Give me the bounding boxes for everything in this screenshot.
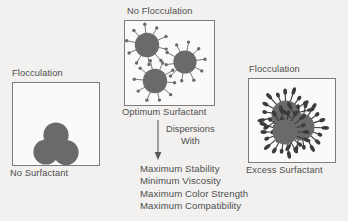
panel-optimum-surfactant-frame xyxy=(124,20,215,106)
panel-no-surfactant-frame xyxy=(12,82,100,166)
panel-excess-surfactant-bottom-caption: Excess Surfactant xyxy=(246,165,323,176)
benefit-item: Maximum Compatibility xyxy=(140,200,248,212)
benefit-item: Minimum Viscosity xyxy=(140,175,248,187)
benefit-item: Maximum Stability xyxy=(140,163,248,175)
panel-excess-surfactant-frame xyxy=(248,78,336,163)
dispersions-label-line-2: With xyxy=(166,136,215,148)
panel-excess-surfactant-top-caption: Flocculation xyxy=(249,64,300,75)
dispersions-label: Dispersions With xyxy=(166,124,215,147)
panel-optimum-surfactant-bottom-caption: Optimum Surfactant xyxy=(122,107,206,118)
benefits-list: Maximum Stability Minimum Viscosity Maxi… xyxy=(140,163,248,213)
dispersions-label-line-1: Dispersions xyxy=(166,124,215,136)
flocculation-diagram: Flocculation No Surfactant No Flocculati… xyxy=(0,0,348,221)
dispersions-arrow xyxy=(155,120,162,160)
panel-optimum-surfactant-top-caption: No Flocculation xyxy=(127,6,193,17)
panel-no-surfactant-top-caption: Flocculation xyxy=(12,68,63,79)
panel-no-surfactant-bottom-caption: No Surfactant xyxy=(10,168,68,179)
benefit-item: Maximum Color Strength xyxy=(140,188,248,200)
